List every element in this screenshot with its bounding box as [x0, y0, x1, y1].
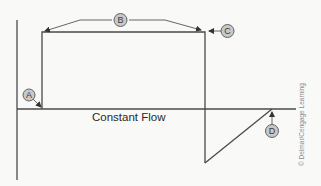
- copyright-notice: © Delmar/Cengage Learning: [298, 83, 305, 166]
- diagram-canvas: A B C D: [0, 0, 321, 186]
- callout-a-arrow: [33, 99, 41, 107]
- callout-d-label: D: [269, 126, 276, 136]
- flow-waveform-diagram: A B C D Constant Flow © Delmar/Cengage L…: [0, 0, 321, 186]
- callout-d: D: [266, 125, 279, 138]
- callout-b: B: [114, 14, 127, 27]
- callout-c: C: [221, 25, 234, 38]
- callout-b-arrow-right: [129, 20, 201, 30]
- inspiratory-flow-waveform: [42, 32, 205, 163]
- callout-b-arrow-left: [45, 20, 112, 31]
- constant-flow-label: Constant Flow: [92, 111, 166, 123]
- expiratory-flow-ramp: [205, 109, 272, 163]
- callout-b-label: B: [117, 15, 123, 25]
- callout-c-label: C: [224, 26, 231, 36]
- callout-a-label: A: [26, 90, 32, 100]
- callout-a: A: [23, 89, 35, 101]
